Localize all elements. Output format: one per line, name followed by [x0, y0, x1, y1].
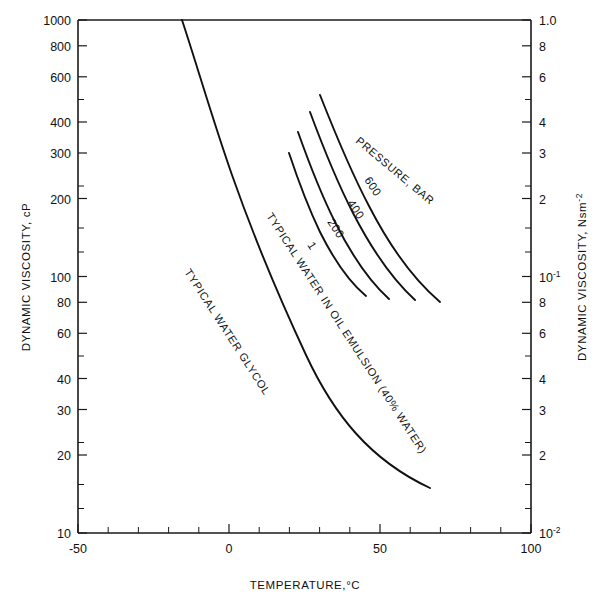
right-tick-label: 3 — [539, 147, 546, 161]
left-tick-label: 30 — [57, 404, 71, 418]
left-tick-label: 1000 — [43, 14, 71, 28]
curve-label-pressure-600: 600 — [362, 175, 383, 199]
x-axis-tick-labels: -50 0 50 100 — [69, 542, 542, 556]
left-tick-label: 40 — [57, 373, 71, 387]
x-axis-ticks — [78, 524, 531, 533]
left-tick-label: 300 — [50, 147, 71, 161]
left-tick-label: 10 — [57, 527, 71, 541]
right-tick-label: 6 — [539, 327, 546, 341]
curve-label-water-glycol: TYPICAL WATER GLYCOL — [182, 267, 273, 398]
right-axis-ticks — [522, 20, 531, 533]
left-axis-ticks — [78, 20, 87, 533]
left-tick-label: 20 — [57, 449, 71, 463]
curve-label-emulsion-family: TYPICAL WATER IN OIL EMULSION (40% WATER… — [264, 211, 429, 456]
right-tick-label: 6 — [539, 71, 546, 85]
right-tick-label: 4 — [539, 373, 546, 387]
y-axis-title-left: DYNAMIC VISCOSITY, cP — [20, 203, 32, 352]
right-tick-label: 2 — [539, 449, 546, 463]
viscosity-temperature-chart: 1000 800 600 400 300 200 100 80 60 40 30… — [0, 0, 609, 611]
x-tick-label: -50 — [69, 542, 87, 556]
x-tick-label: 100 — [521, 542, 542, 556]
curve-label-pressure-1: 1 — [305, 240, 319, 252]
right-tick-label: 3 — [539, 404, 546, 418]
right-tick-label: 4 — [539, 116, 546, 130]
x-axis-title: TEMPERATURE,°C — [250, 579, 361, 591]
x-tick-label: 50 — [373, 542, 387, 556]
curve-label-pressure-400: 400 — [345, 198, 366, 222]
right-tick-label: 2 — [539, 193, 546, 207]
group-label-pressure-bar: PRESSURE, BAR — [354, 134, 437, 206]
right-tick-label: 8 — [539, 40, 546, 54]
right-axis-tick-labels: 1.0 8 6 4 3 2 10-1 8 6 4 3 2 10-2 — [539, 14, 561, 541]
curve-typical-water-glycol — [182, 20, 430, 488]
chart-svg: 1000 800 600 400 300 200 100 80 60 40 30… — [0, 0, 609, 611]
left-tick-label: 400 — [50, 116, 71, 130]
right-tick-label: 10-1 — [539, 269, 561, 285]
left-tick-label: 60 — [57, 327, 71, 341]
left-tick-label: 100 — [50, 271, 71, 285]
x-tick-label: 0 — [226, 542, 233, 556]
right-tick-label: 10-2 — [539, 525, 561, 541]
left-tick-label: 800 — [50, 40, 71, 54]
left-tick-label: 200 — [50, 193, 71, 207]
left-tick-label: 80 — [57, 296, 71, 310]
right-tick-label: 1.0 — [539, 14, 556, 28]
left-tick-label: 600 — [50, 71, 71, 85]
y-axis-title-right: DYNAMIC VISCOSITY, Nsm-2 — [574, 193, 588, 361]
right-tick-label: 8 — [539, 296, 546, 310]
left-axis-tick-labels: 1000 800 600 400 300 200 100 80 60 40 30… — [43, 14, 71, 541]
